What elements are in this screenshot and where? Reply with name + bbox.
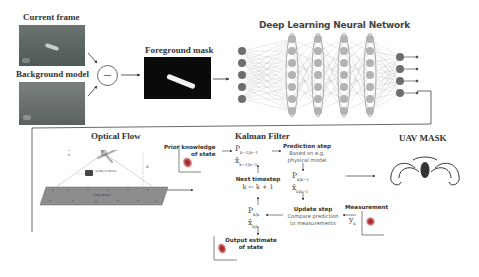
- prediction-title: Prediction step: [283, 143, 331, 150]
- kalman-filter-title: Kalman Filter: [235, 131, 290, 141]
- object-motion-label: (b)Object Motion: [95, 170, 117, 173]
- uav-mask-drone-graphic: [385, 150, 465, 195]
- prediction-line1: Based on e.g.: [283, 150, 331, 157]
- prior-line1: Prior knowledge: [164, 144, 216, 151]
- dnn-title: Deep Learning Neural Network: [259, 20, 410, 30]
- height-label: d: [146, 164, 149, 169]
- P-subscript: k|k: [253, 212, 259, 217]
- next-timestep: Next timestep k ← k + 1: [232, 176, 284, 191]
- update-step: Update step Compare prediction to measur…: [282, 206, 344, 226]
- output-estimate-label: Output estimate of state: [225, 237, 277, 251]
- velocity-label: v: [68, 152, 70, 157]
- x-subscript: k−1|k−1: [239, 161, 257, 166]
- optical-flow-graphic: [38, 150, 173, 210]
- update-line2: to measurements: [282, 220, 344, 227]
- x-subscript: k|k: [252, 223, 258, 228]
- output-line1: Output estimate: [225, 237, 277, 244]
- prediction-step: Prediction step Based on e.g. physical m…: [283, 143, 331, 163]
- updated-state: Pk|k x̂k|k: [248, 207, 259, 230]
- uav-detection-pipeline-diagram: Current frame Background model: [0, 0, 479, 277]
- measurement-distribution-blob: [366, 217, 375, 226]
- ego-motion-label: (f)Ego Motion: [93, 194, 110, 197]
- P-subscript: k−1|k−1: [240, 150, 258, 155]
- foreground-mask-image: [144, 57, 211, 99]
- foreground-mask-label: Foreground mask: [145, 45, 213, 55]
- x-subscript: k|k−1: [296, 188, 308, 193]
- next-timestep-formula: k ← k + 1: [232, 183, 284, 191]
- minus-sign: —: [104, 71, 112, 80]
- update-line1: Compare prediction: [282, 213, 344, 220]
- measurement-label: Measurement: [345, 204, 388, 211]
- update-title: Update step: [282, 206, 344, 213]
- next-timestep-title: Next timestep: [232, 176, 284, 183]
- prior-line2: of state: [164, 151, 216, 158]
- predicted-state: Pk|k−1 x̂k|k−1: [292, 172, 309, 195]
- y-subscript: k: [353, 221, 355, 226]
- optical-flow-title: Optical Flow: [91, 131, 141, 141]
- prior-knowledge-label: Prior knowledge of state: [164, 144, 216, 158]
- uav-mask-title: UAV MASK: [399, 133, 446, 143]
- neural-network-graphic: [232, 33, 424, 123]
- prediction-line2: physical model: [283, 157, 331, 164]
- subtract-operator: —: [97, 65, 118, 86]
- output-line2: of state: [225, 244, 277, 251]
- P-subscript: k|k−1: [297, 177, 309, 182]
- measurement-symbol: yk: [349, 216, 356, 228]
- prior-state: Pk−1|k−1 x̂k−1|k−1: [235, 145, 258, 168]
- boat-silhouette: [166, 74, 196, 90]
